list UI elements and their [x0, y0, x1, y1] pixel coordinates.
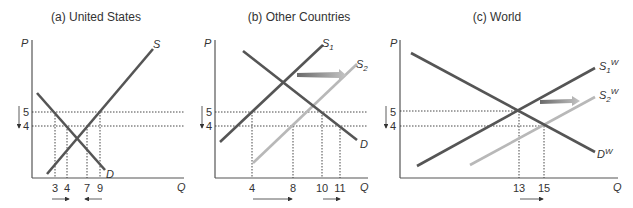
supply-label: S — [153, 38, 161, 50]
price-label-4: 4 — [390, 120, 396, 132]
price-label-5: 5 — [23, 106, 29, 118]
tick-11: 11 — [334, 182, 345, 194]
panel-title: (b) Other Countries — [248, 10, 351, 24]
tick-10: 10 — [316, 182, 328, 194]
panel-world: (c) World P Q 5 4 S1W S2W DW 13 15 — [386, 10, 622, 199]
panel-other-countries: (b) Other Countries P Q 5 4 S1 S2 D 4 8 … — [202, 10, 369, 199]
supply-2-label: S2 — [356, 58, 368, 73]
supply-1-label: S1 — [322, 37, 334, 52]
price-label-4: 4 — [206, 120, 212, 132]
tick-4: 4 — [64, 182, 70, 194]
tick-8: 8 — [290, 182, 296, 194]
p-axis-label: P — [204, 37, 212, 49]
demand-curve — [243, 51, 357, 140]
p-axis-label: P — [390, 37, 398, 49]
q-axis-label: Q — [613, 181, 622, 193]
tick-3: 3 — [52, 182, 58, 194]
world-supply-curve-1 — [417, 68, 595, 166]
panel-title: (c) World — [473, 10, 521, 24]
tick-13: 13 — [513, 182, 525, 194]
price-label-5: 5 — [390, 106, 396, 118]
supply-shift-arrow — [297, 69, 346, 81]
panel-united-states: (a) United States P Q 5 4 S D 3 4 7 9 — [19, 10, 186, 199]
tick-7: 7 — [84, 182, 90, 194]
trade-diagrams: (a) United States P Q 5 4 S D 3 4 7 9 (b… — [0, 0, 633, 208]
demand-label: D — [360, 138, 368, 150]
tick-9: 9 — [97, 182, 103, 194]
supply-curve-1 — [220, 45, 323, 142]
world-supply-curve-2 — [470, 97, 595, 165]
q-axis-label: Q — [177, 181, 186, 193]
p-axis-label: P — [21, 37, 29, 49]
world-supply-2-label: S2W — [599, 87, 620, 104]
world-demand-label: DW — [597, 147, 614, 160]
demand-curve — [37, 93, 105, 170]
panel-title: (a) United States — [51, 10, 141, 24]
tick-4: 4 — [249, 182, 255, 194]
tick-15: 15 — [538, 182, 550, 194]
q-axis-label: Q — [360, 181, 369, 193]
price-label-5: 5 — [206, 106, 212, 118]
price-label-4: 4 — [23, 120, 29, 132]
world-supply-shift-arrow — [540, 96, 580, 106]
world-supply-1-label: S1W — [599, 58, 620, 75]
demand-label: D — [106, 168, 114, 180]
